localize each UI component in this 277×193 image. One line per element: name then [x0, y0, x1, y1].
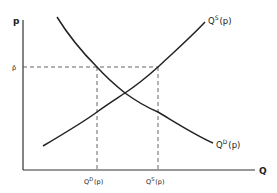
qd-tick-label: QD(p)	[84, 176, 103, 186]
demand-curve-label: QD(p)	[216, 138, 240, 150]
demand-curve	[57, 17, 213, 143]
x-axis-label: Q	[259, 166, 267, 176]
price-bar-label: p̄	[12, 64, 16, 72]
supply-curve-label: QS(p)	[208, 14, 232, 26]
diagram-canvas: p Q p̄ QS(p) QD(p) QD(p) QS(p)	[0, 0, 277, 193]
supply-curve	[43, 22, 205, 146]
y-axis-label: p	[13, 16, 20, 26]
qs-tick-label: QS(p)	[146, 176, 165, 186]
supply-demand-diagram: p Q p̄ QS(p) QD(p) QD(p) QS(p)	[0, 0, 277, 193]
